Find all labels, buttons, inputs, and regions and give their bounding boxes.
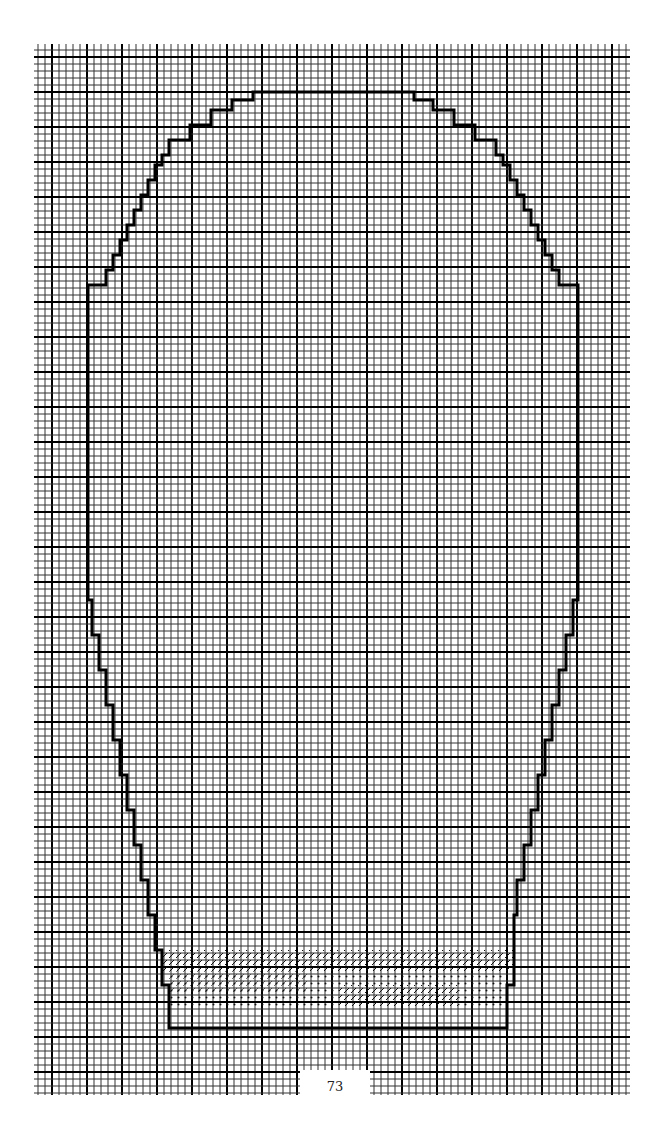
page-number: 73 xyxy=(300,1070,370,1104)
knitting-chart xyxy=(0,0,668,1146)
graph-grid xyxy=(34,44,630,1095)
rib-band xyxy=(162,950,515,1006)
